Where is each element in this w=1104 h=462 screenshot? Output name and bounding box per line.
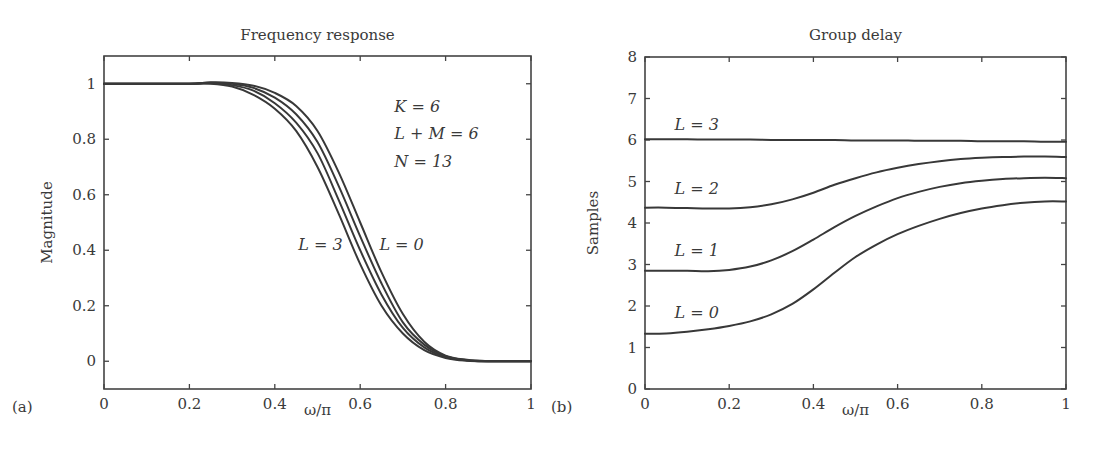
x-tick-label: 0.6 [886, 395, 910, 413]
x-tick-label: 0.4 [263, 395, 287, 413]
y-tick-label: 1 [627, 339, 637, 357]
chart-title: Group delay [809, 26, 902, 44]
y-tick-label: 0.4 [72, 241, 96, 259]
annotation: N = 13 [393, 152, 452, 171]
x-tick-label: 0.2 [717, 395, 741, 413]
x-tick-label: 0 [640, 395, 650, 413]
plot-frame [645, 57, 1066, 389]
annotation: L = 0 [673, 303, 718, 322]
x-tick-label: 0.8 [970, 395, 994, 413]
y-tick-label: 0 [86, 352, 96, 370]
y-tick-label: 2 [627, 297, 637, 315]
y-tick-label: 6 [627, 131, 637, 149]
x-tick-label: 1 [1061, 395, 1071, 413]
y-tick-label: 0.2 [72, 297, 96, 315]
y-tick-label: 5 [627, 173, 637, 191]
annotation: L = 3 [673, 115, 718, 134]
annotation: L = 3 [297, 235, 342, 254]
y-axis-label: Samples [584, 191, 602, 255]
x-tick-label: 0.6 [348, 395, 372, 413]
x-tick-label: 0.8 [434, 395, 458, 413]
panel-label: (a) [12, 398, 33, 416]
y-tick-label: 0 [627, 380, 637, 398]
chart-title: Frequency response [240, 26, 395, 44]
annotation: L = 1 [673, 241, 718, 260]
annotation: L = 0 [378, 235, 423, 254]
x-tick-label: 0 [99, 395, 109, 413]
annotation: L + M = 6 [393, 124, 478, 143]
y-tick-label: 4 [627, 214, 637, 232]
figure: Frequency response00.20.40.60.8100.20.40… [0, 0, 1104, 462]
x-tick-label: 1 [526, 395, 536, 413]
panel-a: Frequency response00.20.40.60.8100.20.40… [12, 26, 536, 419]
y-tick-label: 0.6 [72, 186, 96, 204]
annotation: L = 2 [673, 179, 718, 198]
x-tick-label: 0.2 [177, 395, 201, 413]
x-axis-label: ω/π [842, 401, 869, 419]
y-tick-label: 8 [627, 48, 637, 66]
y-tick-label: 1 [86, 75, 96, 93]
plot-frame [104, 56, 531, 389]
y-tick-label: 3 [627, 256, 637, 274]
x-tick-label: 0.4 [801, 395, 825, 413]
y-tick-label: 0.8 [72, 130, 96, 148]
x-axis-label: ω/π [304, 401, 331, 419]
annotation: K = 6 [393, 97, 440, 116]
y-tick-label: 7 [627, 90, 637, 108]
panel-label: (b) [551, 398, 572, 416]
y-axis-label: Magnitude [38, 181, 56, 264]
panel-b: Group delay00.20.40.60.81012345678ω/πSam… [551, 26, 1071, 419]
series-line-l=3 [645, 139, 1066, 142]
